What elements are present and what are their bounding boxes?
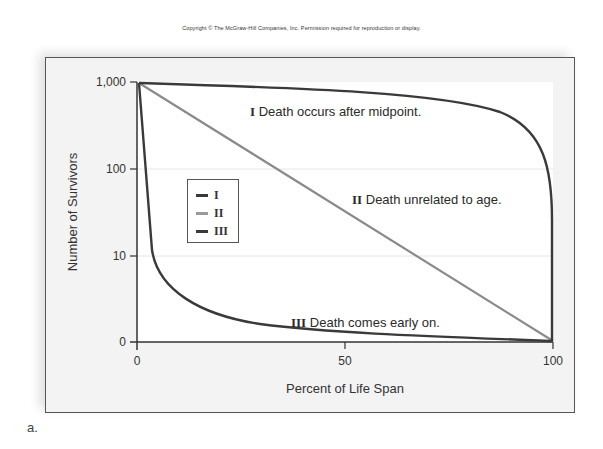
legend-label-iii: III (214, 224, 228, 239)
legend-item-ii: II (196, 204, 238, 222)
annotation-type-ii-roman: II (352, 192, 362, 207)
y-tick-0: 0 (76, 335, 126, 349)
y-tick-100: 100 (76, 162, 126, 176)
legend-swatch-ii (196, 212, 208, 215)
annotation-type-i-text: Death occurs after midpoint. (255, 104, 421, 119)
annotation-type-iii-roman: III (291, 315, 306, 330)
x-tick-0: 0 (134, 354, 141, 368)
y-axis-label: Number of Survivors (65, 153, 80, 271)
annotation-type-i: I Death occurs after midpoint. (250, 104, 421, 120)
x-tick-100: 100 (543, 354, 563, 368)
annotation-type-iii: III Death comes early on. (291, 315, 440, 331)
x-tick-50: 50 (338, 354, 351, 368)
legend-item-iii: III (196, 222, 238, 240)
x-axis-label: Percent of Life Span (286, 381, 404, 396)
legend-item-i: I (196, 186, 238, 204)
annotation-type-iii-text: Death comes early on. (306, 315, 440, 330)
legend-swatch-iii (196, 230, 208, 233)
chart-legend: I II III (187, 179, 239, 243)
annotation-type-ii: II Death unrelated to age. (352, 192, 502, 208)
annotation-type-ii-text: Death unrelated to age. (362, 192, 502, 207)
panel-label: a. (27, 420, 38, 435)
legend-label-ii: II (214, 206, 223, 221)
legend-label-i: I (214, 188, 219, 203)
y-tick-10: 10 (76, 249, 126, 263)
y-tick-1000: 1,000 (76, 75, 126, 89)
legend-swatch-i (196, 194, 208, 197)
